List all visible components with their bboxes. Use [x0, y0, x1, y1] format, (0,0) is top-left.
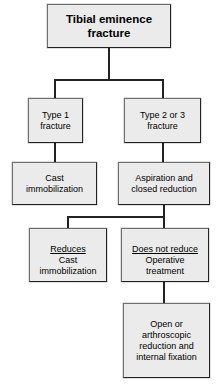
node-type-2-or-3-fracture: Type 2 or 3 fracture — [124, 98, 201, 143]
node-label: Open or arthroscopic reduction and inter… — [134, 319, 199, 363]
node-cast-immobilization: Cast immobilization — [12, 162, 97, 205]
node-label-body: Operative treatment — [145, 255, 184, 276]
edge-not-reduce-to-orif — [163, 282, 165, 304]
edge-root-stem — [108, 48, 110, 80]
node-open-arthroscopic-reduction: Open or arthroscopic reduction and inter… — [123, 303, 210, 378]
node-label: Aspiration and closed reduction — [129, 173, 199, 195]
edge-root-to-type1 — [54, 79, 56, 99]
node-label: Type 1 fracture — [38, 110, 73, 132]
node-label: Does not reduceOperative treatment — [130, 233, 200, 277]
node-label: Type 2 or 3 fracture — [138, 110, 187, 132]
node-outcome-label: Reduces — [39, 244, 96, 255]
edge-root-bus — [54, 79, 164, 81]
node-label: Cast immobilization — [24, 173, 85, 195]
edge-type1-to-cast — [54, 143, 56, 163]
node-label-body: Cast immobilization — [39, 255, 96, 276]
edge-aspiration-bus — [67, 216, 165, 218]
node-label: Tibial eminence fracture — [64, 12, 154, 40]
node-reduces-cast-immobilization: ReducesCast immobilization — [29, 228, 107, 282]
node-label: ReducesCast immobilization — [37, 233, 98, 277]
node-aspiration-closed-reduction: Aspiration and closed reduction — [118, 162, 210, 205]
node-tibial-eminence-fracture: Tibial eminence fracture — [47, 4, 171, 48]
node-does-not-reduce-operative: Does not reduceOperative treatment — [121, 228, 209, 282]
node-type-1-fracture: Type 1 fracture — [28, 98, 83, 143]
node-outcome-label: Does not reduce — [132, 244, 198, 255]
edge-root-to-type23 — [162, 79, 164, 99]
flowchart-diagram: Tibial eminence fracture Type 1 fracture… — [0, 0, 219, 391]
edge-type23-to-aspiration — [162, 143, 164, 163]
